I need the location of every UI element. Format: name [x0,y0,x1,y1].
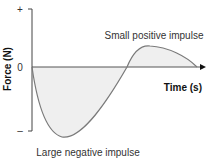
y-tick-plus-label: + [17,4,23,15]
negative-impulse-label: Large negative impulse [36,147,140,158]
negative-impulse-area [32,67,127,137]
force-time-chart: + 0 – Force (N) Time (s) Small positive … [0,0,210,160]
x-axis-title: Time (s) [164,82,202,93]
y-tick-minus-label: – [17,125,23,136]
x-axis-arrow-icon [200,64,206,70]
positive-impulse-area [127,46,197,67]
y-tick-zero-label: 0 [17,62,23,73]
y-axis-title: Force (N) [2,47,13,91]
positive-impulse-label: Small positive impulse [105,30,204,41]
